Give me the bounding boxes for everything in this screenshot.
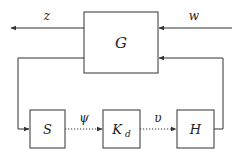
block-kd-subscript: d [125,129,131,139]
block-s-label: S [43,122,52,137]
block-h-label: H [189,122,202,137]
block-diagram: G S K d H z w ψ υ [0,0,241,159]
block-g: G [84,12,158,73]
block-g-label: G [115,34,127,52]
block-s: S [30,110,65,148]
edge-s-to-kd: ψ [65,111,102,129]
signal-w-label: w [189,9,200,23]
edge-z-output: z [11,9,84,28]
edge-g-to-s [18,58,84,129]
edge-kd-to-h: υ [140,111,176,129]
signal-psi-label: ψ [79,111,89,125]
block-kd-label: K [111,122,123,137]
signal-z-label: z [43,9,51,23]
block-h: H [177,110,214,148]
signal-upsilon-label: υ [154,111,161,125]
edge-h-to-g [159,58,223,129]
edge-w-input: w [159,9,232,28]
block-kd: K d [103,110,140,148]
